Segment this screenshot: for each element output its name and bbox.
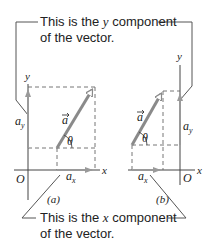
panel-b-ax: ax [138,169,148,185]
panel-a-ay: ay [15,114,25,130]
top-callout: This is the y component of the vector. [40,14,177,46]
panel-a: θ a y x O ay ax (a) [14,70,107,206]
panel-a-origin: O [16,172,25,186]
panel-a-x-axis-label: x [101,164,107,176]
panel-b: θ a y x O ay ax (b) [128,50,202,206]
panel-a-ax: ax [66,169,76,185]
panel-b-angle: θ [142,131,148,145]
panel-b-label: (b) [156,193,169,206]
panel-a-label: (a) [47,193,60,206]
panel-b-origin: O [183,171,192,185]
panel-b-x-axis-label: x [196,164,202,176]
panel-a-angle: θ [67,134,73,148]
panel-a-y-axis-label: y [24,70,30,82]
vector-components-diagram: θ a y x O ay ax (a) θ a [0,0,209,248]
bottom-callout: This is the x component of the vector. [40,210,177,242]
panel-b-y-axis-label: y [176,50,182,62]
panel-b-ay: ay [183,119,193,135]
